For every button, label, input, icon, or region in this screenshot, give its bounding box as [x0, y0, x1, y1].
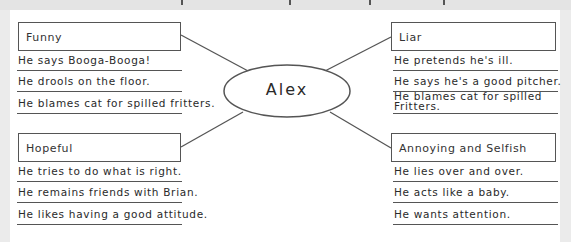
branch-box-liar: Liar	[391, 22, 556, 51]
detail-line: He acts like a baby.	[393, 184, 558, 203]
detail-line: He likes having a good attitude.	[17, 206, 182, 225]
connector-funny	[181, 35, 250, 72]
detail-line: He wants attention.	[393, 206, 558, 225]
detail-line: He blames cat for spilled fritters.	[17, 95, 182, 114]
branch-box-hopeful: Hopeful	[18, 133, 181, 162]
connector-liar	[323, 37, 391, 72]
branch-box-funny: Funny	[18, 22, 181, 51]
detail-line: He remains friends with Brian.	[17, 184, 182, 203]
branch-box-annoying-selfish: Annoying and Selfish	[391, 133, 556, 162]
detail-line: He says Booga-Booga!	[17, 52, 182, 71]
center-node-label: Alex	[224, 80, 350, 99]
detail-line: He tries to do what is right.	[17, 163, 182, 182]
detail-line: He blames cat for spilled Fritters.	[393, 90, 558, 114]
connector-hopeful	[181, 112, 243, 147]
detail-line: He pretends he's ill.	[393, 52, 558, 71]
connector-annoying	[330, 112, 391, 148]
detail-line: He lies over and over.	[393, 163, 558, 182]
detail-line: He drools on the floor.	[17, 73, 182, 92]
